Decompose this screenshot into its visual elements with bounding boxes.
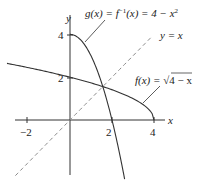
g-label: g(x) = f−1(x) = 4 − x2 bbox=[85, 7, 179, 20]
x-tick-label-2: 2 bbox=[106, 126, 112, 138]
x-axis-label: x bbox=[167, 114, 173, 126]
y-tick-label-2: 2 bbox=[58, 72, 64, 84]
x-tick-label-neg2: −2 bbox=[20, 126, 32, 138]
y-tick-label-4: 4 bbox=[58, 29, 64, 41]
x-tick-label-4: 4 bbox=[150, 126, 156, 138]
function-graph: −2 2 4 2 4 y x g(x) = f−1(x) = 4 − x2 y … bbox=[0, 0, 199, 180]
f-label: f(x) = √4 − x bbox=[135, 74, 192, 87]
y-axis-label: y bbox=[65, 12, 71, 24]
f-leader-line bbox=[143, 86, 160, 103]
g-curve bbox=[70, 34, 125, 179]
identity-line bbox=[15, 37, 152, 176]
f-curve bbox=[7, 63, 154, 120]
g-leader-line bbox=[85, 20, 105, 42]
identity-label: y = x bbox=[159, 29, 183, 41]
